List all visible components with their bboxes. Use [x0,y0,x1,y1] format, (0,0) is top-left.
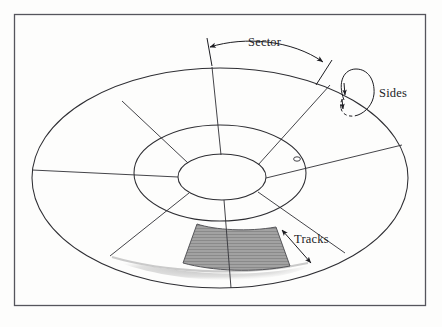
sector-annotation: Sector [207,35,332,85]
radial-divider [212,67,221,155]
radial-divider [258,85,330,165]
middle-track-ring [134,125,306,221]
sides-arrowhead-upper [344,83,345,95]
sector-tick-left [207,38,212,66]
radial-divider [266,145,402,178]
figure-root: Sector Sides Tracks [0,0,442,327]
sides-loop-solid [341,69,374,115]
disk-geometry-diagram: Sector Sides Tracks [0,0,442,327]
tracks-annotation: Tracks [282,230,329,263]
sides-annotation: Sides [341,69,407,116]
sides-loop-dashed-right [341,108,358,116]
radial-divider [110,193,189,256]
tracks-label: Tracks [294,232,329,246]
sides-label: Sides [379,86,407,100]
sector-tick-right [316,60,332,85]
inner-hub [178,154,266,200]
shaded-sector [183,224,290,270]
track-node-marker [294,157,301,161]
sector-label: Sector [248,35,282,49]
sides-arrowhead-lower [342,99,343,109]
radial-divider [122,101,188,163]
radial-divider [32,170,178,177]
